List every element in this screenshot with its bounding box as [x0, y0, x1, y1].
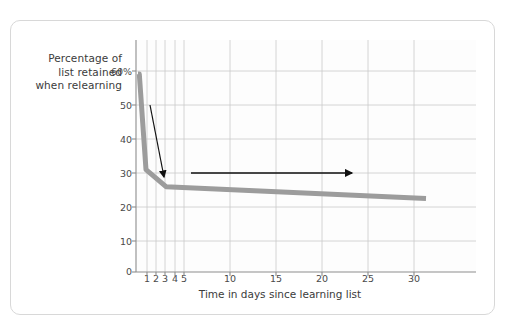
- y-axis-ticks: [132, 71, 136, 272]
- plot-area-background: [136, 40, 476, 272]
- chart-canvas: [0, 0, 508, 326]
- x-axis-ticks: [147, 272, 414, 276]
